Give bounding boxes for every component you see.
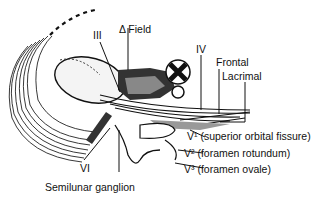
label-lacrimal: Lacrimal — [222, 70, 262, 82]
label-iii: III — [93, 29, 102, 41]
label-v1: V¹ (superior orbital fissure) — [187, 130, 311, 142]
anatomy-drawing — [0, 0, 324, 203]
label-iv: IV — [196, 43, 206, 55]
diagram-canvas: III Δ Field IV Frontal Lacrimal V¹ (supe… — [0, 0, 324, 203]
label-v3: V³ (foramen ovale) — [184, 163, 271, 175]
label-vi: VI — [80, 162, 90, 174]
label-delta-field: Δ Field — [119, 23, 151, 35]
label-semilunar-ganglion: Semilunar ganglion — [45, 181, 135, 193]
label-frontal: Frontal — [216, 56, 249, 68]
label-v2: V² (foramen rotundum) — [184, 147, 290, 159]
